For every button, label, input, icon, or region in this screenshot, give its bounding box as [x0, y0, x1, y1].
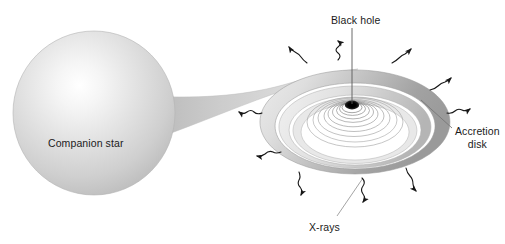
label-accretion-disk: Accretion disk	[455, 125, 500, 150]
xray-arrow-left-upper	[239, 111, 262, 114]
diagram-canvas: Black hole Companion star Accretion disk…	[0, 0, 505, 244]
label-companion-star: Companion star	[48, 137, 124, 149]
label-black-hole: Black hole	[331, 14, 380, 26]
xray-arrow-top-left	[289, 47, 307, 63]
xray-arrow-right-lower	[447, 109, 470, 113]
xray-arrow-bottom-right	[406, 168, 416, 191]
xray-arrow-top-center	[336, 41, 340, 60]
xray-arrow-bottom-left	[298, 172, 302, 195]
companion-star	[13, 31, 175, 195]
xray-arrow-top-right	[392, 49, 411, 63]
diagram-svg	[0, 0, 505, 244]
xray-arrow-bottom-center	[362, 178, 365, 202]
label-xrays: X-rays	[309, 221, 340, 233]
xray-arrow-right-upper	[430, 78, 451, 90]
leader-xrays	[337, 178, 363, 216]
accretion-disk	[260, 70, 450, 174]
label-accretion-disk-line2: disk	[455, 138, 500, 151]
label-accretion-disk-line1: Accretion	[455, 125, 500, 138]
